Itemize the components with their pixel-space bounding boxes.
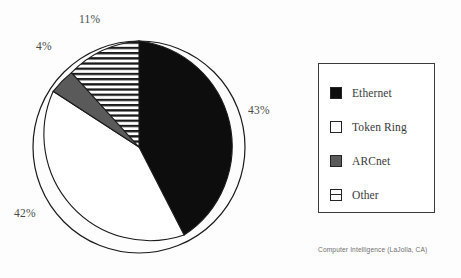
source-caption: Computer Intelligence (LaJolla, CA) <box>318 246 427 253</box>
legend-swatch-ethernet-icon <box>330 87 342 99</box>
legend-label-arcnet: ARCnet <box>352 155 390 167</box>
legend-item-ethernet: Ethernet <box>330 76 434 110</box>
legend-label-other: Other <box>352 189 379 201</box>
legend-item-token-ring: Token Ring <box>330 110 434 144</box>
legend-label-token-ring: Token Ring <box>352 121 407 133</box>
legend-swatch-token-ring-icon <box>330 121 342 133</box>
legend-list: Ethernet Token Ring ARCnet Other <box>319 64 434 212</box>
chart-page: 11% 4% 43% 42% Ethernet Token Ring ARCne… <box>0 0 461 278</box>
pie-label-ethernet: 43% <box>248 104 270 116</box>
pie-label-other: 11% <box>79 13 100 25</box>
pie-label-arcnet: 4% <box>36 40 52 52</box>
legend: Ethernet Token Ring ARCnet Other <box>318 63 435 213</box>
legend-label-ethernet: Ethernet <box>352 87 392 99</box>
pie-chart: 11% 4% 43% 42% <box>0 0 300 278</box>
legend-swatch-arcnet-icon <box>330 155 342 167</box>
legend-swatch-other-icon <box>330 189 342 201</box>
legend-item-arcnet: ARCnet <box>330 144 434 178</box>
legend-item-other: Other <box>330 178 434 212</box>
pie-label-token-ring: 42% <box>14 207 36 219</box>
